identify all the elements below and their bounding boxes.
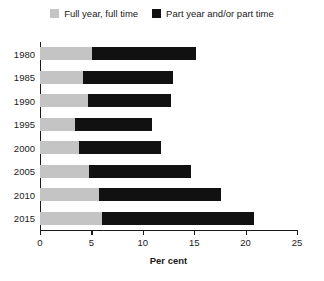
y-tick-label: 1985: [14, 72, 35, 83]
bar-segment: [79, 141, 161, 154]
x-tick-mark: [194, 230, 195, 235]
bar-row: 1980: [40, 47, 196, 60]
x-tick-mark: [143, 230, 144, 235]
bar-row: 2010: [40, 188, 221, 201]
x-tick-mark: [246, 230, 247, 235]
bar-segment: [40, 212, 102, 225]
bar-row: 1990: [40, 94, 171, 107]
bar-segment: [40, 71, 83, 84]
bar-row: 1985: [40, 71, 173, 84]
x-tick-label: 5: [89, 237, 94, 248]
y-tick-label: 2015: [14, 213, 35, 224]
bar-segment: [75, 118, 152, 131]
x-tick-label: 0: [37, 237, 42, 248]
y-tick-label: 1995: [14, 119, 35, 130]
bar-row: 1995: [40, 118, 152, 131]
legend-label-part-year-part-time: Part year and/or part time: [166, 9, 274, 19]
bar-segment: [99, 188, 221, 201]
bar-segment: [40, 118, 75, 131]
x-tick-mark: [91, 230, 92, 235]
legend-swatch-full-year-full-time: [50, 9, 59, 18]
bar-segment: [40, 94, 88, 107]
bar-segment: [40, 188, 99, 201]
bar-row: 2005: [40, 165, 191, 178]
bar-segment: [40, 165, 89, 178]
x-axis-line: [40, 230, 298, 231]
x-tick-label: 20: [240, 237, 251, 248]
x-tick-label: 15: [189, 237, 200, 248]
stacked-bar-chart: Full year, full time Part year and/or pa…: [0, 0, 324, 281]
bar-segment: [89, 165, 191, 178]
x-tick-mark: [40, 230, 41, 235]
y-tick-label: 1990: [14, 95, 35, 106]
bar-row: 2015: [40, 212, 254, 225]
legend-label-full-year-full-time: Full year, full time: [64, 9, 138, 19]
x-tick-label: 10: [138, 237, 149, 248]
bar-row: 2000: [40, 141, 161, 154]
legend-swatch-part-year-part-time: [152, 9, 161, 18]
y-tick-label: 1980: [14, 48, 35, 59]
y-tick-label: 2005: [14, 166, 35, 177]
bar-segment: [40, 47, 92, 60]
x-tick-mark: [297, 230, 298, 235]
bar-segment: [92, 47, 196, 60]
legend-item-full-year-full-time: Full year, full time: [50, 9, 138, 19]
x-tick-label: 25: [292, 237, 303, 248]
bar-segment: [40, 141, 79, 154]
chart-legend: Full year, full time Part year and/or pa…: [0, 9, 324, 19]
plot-area: 0510152025 19801985199019952000200520102…: [40, 42, 297, 230]
legend-item-part-year-part-time: Part year and/or part time: [152, 9, 274, 19]
bar-segment: [83, 71, 172, 84]
bar-segment: [102, 212, 254, 225]
x-axis-title: Per cent: [40, 255, 297, 266]
y-tick-label: 2000: [14, 142, 35, 153]
y-tick-label: 2010: [14, 189, 35, 200]
bar-segment: [88, 94, 170, 107]
